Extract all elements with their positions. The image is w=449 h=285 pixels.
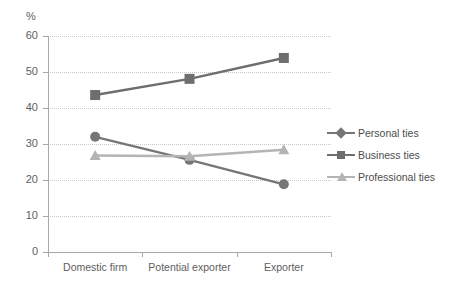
- y-axis-unit-label: %: [26, 10, 36, 22]
- series-line-professional-ties: [95, 150, 284, 156]
- gridline: [48, 216, 331, 217]
- x-tick-label: Domestic firm: [63, 261, 127, 273]
- gridline: [48, 144, 331, 145]
- diamond-marker-icon: [185, 155, 195, 165]
- y-tick-label: 30: [4, 138, 38, 149]
- legend-item-business-ties: Business ties: [327, 144, 449, 166]
- x-tick-label: Potential exporter: [148, 261, 230, 273]
- y-axis-line: [48, 36, 49, 253]
- triangle-marker-icon: [90, 150, 101, 160]
- gridline: [48, 180, 331, 181]
- legend-swatch-square-icon: [327, 148, 355, 162]
- y-tick-label: 60: [4, 30, 38, 41]
- square-marker-icon: [279, 53, 289, 63]
- legend-item-personal-ties: Personal ties: [327, 122, 449, 144]
- legend-item-professional-ties: Professional ties: [327, 166, 449, 188]
- triangle-marker-icon: [337, 172, 347, 181]
- x-tick-label: Exporter: [264, 261, 304, 273]
- y-tick-label: 40: [4, 102, 38, 113]
- legend-label-business-ties: Business ties: [358, 149, 420, 161]
- legend-label-personal-ties: Personal ties: [358, 127, 419, 139]
- y-tick-label: 0: [4, 246, 38, 257]
- diamond-marker-icon: [335, 127, 346, 138]
- square-marker-icon: [185, 74, 195, 84]
- x-tick-mark: [331, 252, 332, 257]
- triangle-marker-icon: [278, 144, 289, 154]
- chart-legend: Personal ties Business ties Professional…: [327, 122, 449, 188]
- y-tick-label: 20: [4, 174, 38, 185]
- gridline: [48, 108, 331, 109]
- line-chart: % 0102030405060 Domestic firmPotential e…: [0, 0, 449, 285]
- x-axis-line: [48, 252, 331, 253]
- legend-swatch-triangle-icon: [327, 170, 355, 184]
- square-marker-icon: [90, 90, 100, 100]
- gridline: [48, 36, 331, 37]
- square-marker-icon: [337, 151, 345, 159]
- diamond-marker-icon: [90, 132, 100, 142]
- legend-label-professional-ties: Professional ties: [358, 171, 435, 183]
- gridline: [48, 72, 331, 73]
- series-line-business-ties: [95, 58, 284, 95]
- legend-swatch-diamond-icon: [327, 126, 355, 140]
- triangle-marker-icon: [184, 151, 195, 161]
- y-tick-label: 50: [4, 66, 38, 77]
- y-tick-label: 10: [4, 210, 38, 221]
